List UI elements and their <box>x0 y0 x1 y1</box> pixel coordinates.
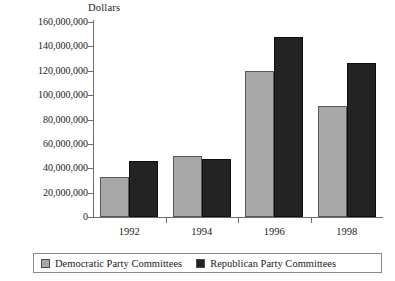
bar-1998-democratic <box>318 106 347 217</box>
x-axis-tick-label: 1992 <box>119 226 140 238</box>
legend-swatch-icon <box>196 259 205 268</box>
bar-chart-figure: Dollars 020,000,00040,000,00060,000,0008… <box>0 0 395 281</box>
bar-1998-republican <box>347 63 376 217</box>
bars-layer <box>93 22 383 217</box>
y-axis-tick-label: 60,000,000 <box>2 139 88 149</box>
bar-1994-democratic <box>173 156 202 217</box>
chart-legend: Democratic Party CommitteesRepublican Pa… <box>33 253 382 273</box>
y-axis-tick-label: 140,000,000 <box>2 41 88 51</box>
y-axis-tick-label: 120,000,000 <box>2 66 88 76</box>
legend-label: Republican Party Committees <box>210 258 336 269</box>
y-axis-tick-label: 0 <box>2 212 88 222</box>
y-axis-tick <box>88 217 93 218</box>
legend-label: Democratic Party Committees <box>55 258 182 269</box>
x-axis-tick <box>311 218 312 223</box>
x-axis-tick <box>238 218 239 223</box>
y-axis-labels: 020,000,00040,000,00060,000,00080,000,00… <box>0 22 88 217</box>
bar-1994-republican <box>202 159 231 218</box>
x-axis-tick <box>166 218 167 223</box>
y-axis-tick-label: 20,000,000 <box>2 188 88 198</box>
legend-item-republican: Republican Party Committees <box>196 258 336 269</box>
bar-1992-republican <box>129 161 158 217</box>
x-axis-tick-label: 1998 <box>336 226 357 238</box>
bar-1992-democratic <box>100 177 129 217</box>
x-axis-tick-label: 1994 <box>191 226 212 238</box>
bar-1996-democratic <box>245 71 274 217</box>
bar-1996-republican <box>274 37 303 217</box>
legend-swatch-icon <box>41 259 50 268</box>
y-axis-title: Dollars <box>88 2 120 13</box>
y-axis-tick-label: 160,000,000 <box>2 17 88 27</box>
legend-item-democratic: Democratic Party Committees <box>41 258 182 269</box>
x-axis-tick-label: 1996 <box>264 226 285 238</box>
y-axis-tick-label: 40,000,000 <box>2 163 88 173</box>
y-axis-tick-label: 100,000,000 <box>2 90 88 100</box>
y-axis-tick-label: 80,000,000 <box>2 115 88 125</box>
